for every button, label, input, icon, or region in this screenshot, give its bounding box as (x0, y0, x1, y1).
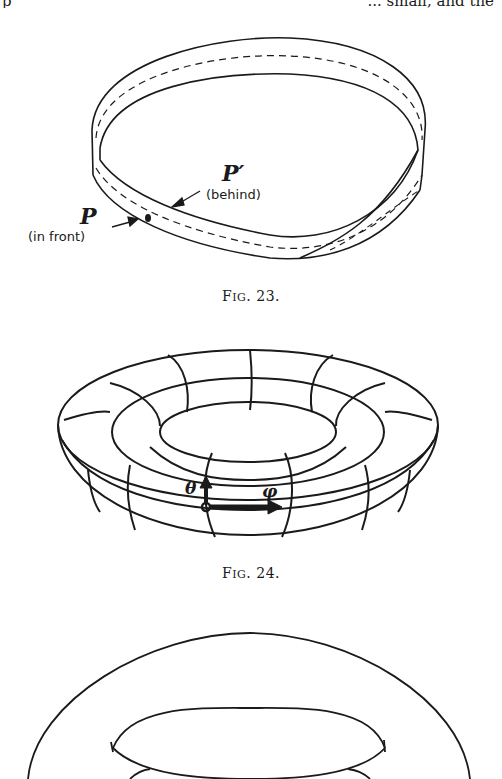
figure-23-caption: FIG. 23. (0, 288, 502, 304)
caption-prefix: F (222, 288, 232, 304)
caption-smallcaps: IG (232, 291, 246, 304)
figure-25-torus-outline (0, 620, 502, 779)
point-p-marker (145, 214, 151, 222)
caption-number: . 24. (246, 565, 280, 581)
phi-arrow-icon (268, 500, 282, 514)
figure-24-caption: FIG. 24. (0, 565, 502, 581)
figure-23-mobius-strip (0, 0, 502, 290)
label-p: P (80, 203, 97, 229)
label-p-note: (in front) (28, 229, 85, 244)
figure-24-torus-grid (0, 340, 502, 550)
label-theta: θ (185, 478, 196, 498)
label-p-prime-note: (behind) (206, 187, 261, 202)
arrow-to-p-icon (128, 217, 138, 226)
caption-number: . 23. (246, 288, 280, 304)
caption-smallcaps: IG (232, 568, 246, 581)
label-p-prime: P′ (222, 160, 244, 186)
label-phi: φ (262, 481, 277, 501)
caption-prefix: F (222, 565, 232, 581)
arrow-to-p-prime-icon (172, 198, 184, 207)
